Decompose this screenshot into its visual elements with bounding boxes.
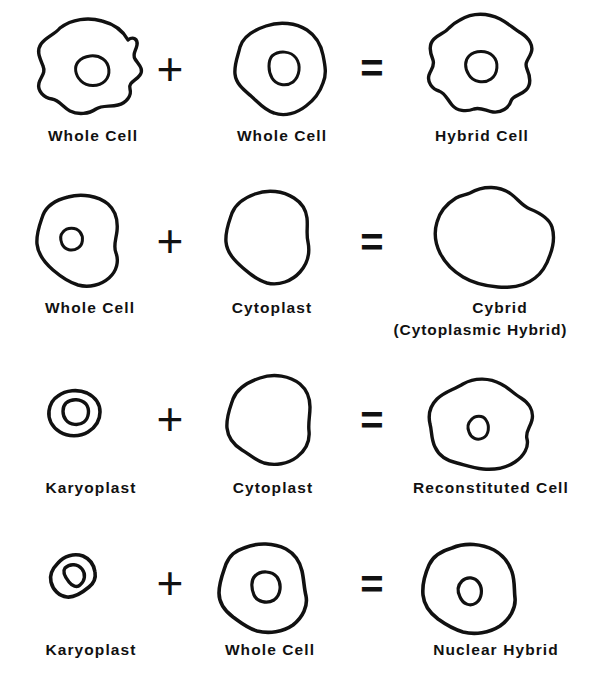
- plus-sign: +: [157, 396, 184, 442]
- operator-equals-row-4: =: [350, 564, 394, 604]
- cell-label-nuclear-hybrid: Nuclear Hybrid: [433, 640, 559, 661]
- cell-figure-whole-cell-2: [222, 18, 342, 128]
- round-cell-with-small-nucleus-icon: [22, 190, 137, 300]
- cell-figure-cytoplast-1: [210, 186, 325, 298]
- cell-figure-hybrid-cell: [408, 8, 553, 126]
- cell-label-cybrid-subtitle: (Cytoplasmic Hybrid): [394, 320, 568, 341]
- label-wrap-karyoplast-1: Karyoplast: [0, 478, 182, 499]
- label-wrap-cytoplast-1: Cytoplast: [197, 298, 347, 319]
- label-wrap-whole-cell-4: Whole Cell: [190, 640, 350, 661]
- cell-figure-karyoplast-1: [38, 386, 113, 448]
- cell-figure-karyoplast-2: [40, 550, 110, 612]
- cell-label-whole-cell-2: Whole Cell: [237, 126, 327, 147]
- cell-label-whole-cell-4: Whole Cell: [225, 640, 315, 661]
- operator-plus-row-3: +: [148, 396, 192, 442]
- operator-equals-row-2: =: [350, 222, 394, 262]
- cell-label-whole-cell-3: Whole Cell: [45, 298, 135, 319]
- cell-label-reconstituted-cell: Reconstituted Cell: [413, 478, 569, 499]
- diagram-row-cybrid: Whole Cell + Cytoplast = Cybrid (Cytopla…: [0, 170, 601, 345]
- cell-figure-whole-cell-1: [22, 12, 162, 127]
- square-round-cell-with-nucleus-icon: [206, 540, 324, 645]
- diagram-row-reconstituted-cell: Karyoplast + Cytoplast = Reconstituted C…: [0, 368, 601, 518]
- small-karyoplast-icon: [40, 550, 110, 612]
- cell-hybridization-diagram: Whole Cell + Whole Cell = Hybrid Cell: [0, 0, 601, 687]
- plus-sign: +: [157, 218, 184, 264]
- label-wrap-whole-cell-1: Whole Cell: [8, 126, 178, 147]
- cell-label-cytoplast-1: Cytoplast: [232, 298, 313, 319]
- label-wrap-whole-cell-2: Whole Cell: [202, 126, 362, 147]
- equals-sign: =: [360, 48, 383, 88]
- cell-label-cytoplast-2: Cytoplast: [233, 478, 314, 499]
- diagram-row-nuclear-hybrid: Karyoplast + Whole Cell = Nuclear Hybrid: [0, 532, 601, 687]
- operator-equals-row-3: =: [350, 400, 394, 440]
- small-karyoplast-icon: [38, 386, 113, 448]
- label-wrap-cytoplast-2: Cytoplast: [198, 478, 348, 499]
- cell-figure-whole-cell-4: [206, 540, 324, 645]
- cell-label-hybrid-cell: Hybrid Cell: [435, 126, 529, 147]
- large-enucleated-cell-icon: [418, 182, 573, 300]
- plus-sign: +: [157, 560, 184, 606]
- rounded-cell-with-nucleus-icon: [222, 18, 342, 128]
- cell-figure-nuclear-hybrid: [406, 540, 536, 645]
- label-wrap-karyoplast-2: Karyoplast: [0, 640, 182, 661]
- lobed-cell-with-nucleus-icon: [408, 8, 553, 126]
- operator-plus-row-4: +: [148, 560, 192, 606]
- cell-label-whole-cell-1: Whole Cell: [48, 126, 138, 147]
- round-cell-with-nucleus-icon: [406, 540, 536, 645]
- operator-plus-row-1: +: [148, 46, 192, 92]
- label-wrap-cybrid-subtitle: (Cytoplasmic Hybrid): [360, 320, 601, 341]
- label-wrap-whole-cell-3: Whole Cell: [5, 298, 175, 319]
- label-wrap-hybrid-cell: Hybrid Cell: [398, 126, 566, 147]
- cell-figure-whole-cell-3: [22, 190, 137, 300]
- cell-figure-cybrid: [418, 182, 573, 300]
- enucleated-cell-icon: [210, 186, 325, 298]
- enucleated-cell-icon: [212, 370, 327, 478]
- label-wrap-reconstituted-cell: Reconstituted Cell: [381, 478, 601, 499]
- label-wrap-cybrid: Cybrid: [400, 298, 600, 319]
- amoeboid-cell-with-nucleus-icon: [22, 12, 162, 127]
- cell-figure-reconstituted-cell: [415, 374, 545, 482]
- plus-sign: +: [157, 46, 184, 92]
- equals-sign: =: [360, 222, 383, 262]
- round-cell-with-small-nucleus-icon: [415, 374, 545, 482]
- operator-equals-row-1: =: [350, 48, 394, 88]
- cell-figure-cytoplast-2: [212, 370, 327, 478]
- equals-sign: =: [360, 400, 383, 440]
- cell-label-karyoplast-1: Karyoplast: [45, 478, 136, 499]
- cell-label-karyoplast-2: Karyoplast: [45, 640, 136, 661]
- operator-plus-row-2: +: [148, 218, 192, 264]
- equals-sign: =: [360, 564, 383, 604]
- label-wrap-nuclear-hybrid: Nuclear Hybrid: [392, 640, 600, 661]
- diagram-row-hybrid-cell: Whole Cell + Whole Cell = Hybrid Cell: [0, 0, 601, 160]
- cell-label-cybrid: Cybrid: [472, 298, 528, 319]
